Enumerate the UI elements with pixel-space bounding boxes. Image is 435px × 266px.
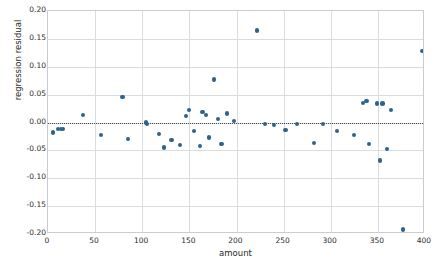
y-tick-label: 0.05 <box>6 90 46 98</box>
data-point <box>216 117 220 121</box>
scatter-chart-figure: -0.20-0.15-0.10-0.050.000.050.100.150.20… <box>0 0 435 266</box>
data-point <box>204 113 208 117</box>
x-tick-label: 200 <box>216 236 256 245</box>
x-tick-label: 350 <box>357 236 397 245</box>
data-point <box>157 132 161 136</box>
data-point <box>335 129 339 133</box>
plot-area <box>47 10 424 233</box>
gridline-vertical <box>331 11 332 232</box>
y-tick-label: -0.05 <box>6 145 46 153</box>
data-point <box>263 122 267 126</box>
data-point <box>255 28 259 32</box>
data-point <box>283 128 287 132</box>
data-point <box>364 99 368 103</box>
x-tick-label: 100 <box>121 236 161 245</box>
data-point <box>162 145 166 149</box>
data-point <box>225 111 229 115</box>
gridline-horizontal <box>48 67 423 68</box>
data-point <box>81 113 85 117</box>
data-point <box>126 137 130 141</box>
data-point <box>178 143 182 147</box>
data-point <box>420 49 424 53</box>
data-point <box>378 158 382 162</box>
data-point <box>367 142 371 146</box>
gridline-horizontal <box>48 206 423 207</box>
gridline-horizontal <box>48 39 423 40</box>
data-point <box>219 142 223 146</box>
x-tick-label: 150 <box>168 236 208 245</box>
data-point <box>145 122 149 126</box>
gridline-horizontal <box>48 95 423 96</box>
x-tick-label: 400 <box>404 236 435 245</box>
data-point <box>295 122 299 126</box>
y-tick-label: 0.15 <box>6 34 46 42</box>
gridline-vertical <box>189 11 190 232</box>
y-tick-label: 0.20 <box>6 6 46 14</box>
data-point <box>375 101 379 105</box>
gridline-vertical <box>95 11 96 232</box>
data-point <box>187 108 191 112</box>
x-tick-label: 50 <box>74 236 114 245</box>
data-point <box>198 144 202 148</box>
x-tick-label: 300 <box>310 236 350 245</box>
data-point <box>169 138 173 142</box>
data-point <box>321 122 325 126</box>
data-point <box>99 133 103 137</box>
data-point <box>380 101 384 105</box>
data-point <box>184 114 188 118</box>
data-point <box>389 108 393 112</box>
data-point <box>192 129 196 133</box>
data-point <box>272 123 276 127</box>
data-point <box>401 227 405 231</box>
gridline-vertical <box>284 11 285 232</box>
y-tick-label: 0.00 <box>6 118 46 126</box>
y-tick-label: 0.10 <box>6 62 46 70</box>
gridline-vertical <box>378 11 379 232</box>
x-tick-label: 250 <box>263 236 303 245</box>
x-tick-label: 0 <box>27 236 67 245</box>
y-axis-label: regression residual <box>13 0 23 130</box>
data-point <box>312 141 316 145</box>
gridline-vertical <box>237 11 238 232</box>
zero-reference-line <box>48 123 423 124</box>
x-axis-label: amount <box>47 248 424 258</box>
gridline-horizontal <box>48 178 423 179</box>
data-point <box>120 95 124 99</box>
data-point <box>51 130 55 134</box>
data-point <box>207 135 211 139</box>
data-point <box>61 127 65 131</box>
y-tick-label: -0.10 <box>6 173 46 181</box>
gridline-horizontal <box>48 150 423 151</box>
y-tick-label: -0.15 <box>6 201 46 209</box>
data-point <box>352 133 356 137</box>
data-point <box>212 77 216 81</box>
